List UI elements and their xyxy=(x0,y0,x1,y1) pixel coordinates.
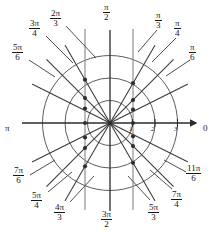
fraction-denominator: 4 xyxy=(171,200,182,209)
data-point xyxy=(83,78,87,82)
data-point xyxy=(83,106,87,110)
fraction: 7π4 xyxy=(171,190,182,209)
angle-label-3pi-over-4: 3π4 xyxy=(29,19,40,38)
angle-label-5pi-over-4: 5π4 xyxy=(31,191,42,210)
angle-label-5pi-over-6: 5π6 xyxy=(12,43,23,62)
fraction-denominator: 4 xyxy=(31,201,42,210)
angle-label-pi-over-6: π6 xyxy=(189,43,196,62)
data-point xyxy=(83,121,87,125)
fraction-denominator: 4 xyxy=(29,29,40,38)
data-point xyxy=(108,121,112,125)
radial-tick-label-2: 2 xyxy=(151,126,155,133)
angle-label-7pi-over-6: 7π6 xyxy=(13,166,24,185)
radial-tick-label-1: 1 xyxy=(129,126,133,133)
fraction-denominator: 2 xyxy=(103,13,110,22)
angle-label-5pi-over-3: 5π3 xyxy=(148,203,159,222)
angle-label-2pi-over-3: 2π3 xyxy=(50,9,61,28)
data-point xyxy=(131,98,135,102)
fraction: 2π3 xyxy=(50,9,61,28)
axis-label-text: 0 xyxy=(203,123,208,133)
data-point xyxy=(83,146,87,150)
angle-label-pi: π xyxy=(5,118,10,134)
fraction-denominator: 6 xyxy=(13,176,24,185)
fraction-denominator: 6 xyxy=(12,53,23,62)
fraction-denominator: 3 xyxy=(148,213,159,222)
angle-label-3pi-over-2: 3π2 xyxy=(101,210,112,229)
angle-label-pi-over-4: π4 xyxy=(174,19,181,38)
data-point xyxy=(83,96,87,100)
guide-verticals xyxy=(85,29,133,210)
angle-label-pi-over-3: π3 xyxy=(155,11,162,30)
fraction: 5π3 xyxy=(148,203,159,222)
fraction: 4π3 xyxy=(54,203,65,222)
fraction: 3π4 xyxy=(29,19,40,38)
fraction: π4 xyxy=(174,19,181,38)
fraction-denominator: 3 xyxy=(54,213,65,222)
fraction: π2 xyxy=(103,3,110,22)
leader-3pi-4 xyxy=(46,36,73,63)
data-point xyxy=(131,108,135,112)
fraction-denominator: 6 xyxy=(186,174,201,183)
angle-label-4pi-over-3: 4π3 xyxy=(54,203,65,222)
fraction: π6 xyxy=(189,43,196,62)
data-point xyxy=(83,135,87,139)
fraction-denominator: 3 xyxy=(155,21,162,30)
data-point xyxy=(83,164,87,168)
leader-7pi-6 xyxy=(30,160,55,175)
data-point xyxy=(131,81,135,85)
fraction-denominator: 2 xyxy=(101,220,112,229)
fraction: 5π6 xyxy=(12,43,23,62)
leader-2pi-3 xyxy=(66,26,96,58)
leader-7pi-4 xyxy=(150,170,172,189)
angle-label-zero: 0 xyxy=(203,118,208,134)
data-point xyxy=(131,134,135,138)
angle-label-7pi-over-4: 7π4 xyxy=(171,190,182,209)
leader-5pi-6 xyxy=(29,60,55,77)
fraction: 7π6 xyxy=(13,166,24,185)
radial-tick-label-3: 3 xyxy=(174,126,178,133)
fraction-denominator: 4 xyxy=(174,29,181,38)
leader-pi-3 xyxy=(138,30,157,52)
fraction: 5π4 xyxy=(31,191,42,210)
angle-label-11pi-over-6: 11π6 xyxy=(186,164,201,183)
fraction: 3π2 xyxy=(101,210,112,229)
fraction-denominator: 6 xyxy=(189,53,196,62)
angle-label-pi-over-2: π2 xyxy=(103,3,110,22)
leader-11pi-6 xyxy=(164,160,186,172)
leader-pi-6 xyxy=(166,60,190,76)
leader-pi-4 xyxy=(152,38,176,62)
data-point xyxy=(131,144,135,148)
axis-label-text: π xyxy=(5,123,10,133)
polar-chart-figure: π2π3π4π62π33π45π6π7π65π44π33π25π37π411π6… xyxy=(0,0,216,237)
fraction: 11π6 xyxy=(186,164,201,183)
data-point xyxy=(131,161,135,165)
fraction-denominator: 3 xyxy=(50,19,61,28)
fraction: π3 xyxy=(155,11,162,30)
